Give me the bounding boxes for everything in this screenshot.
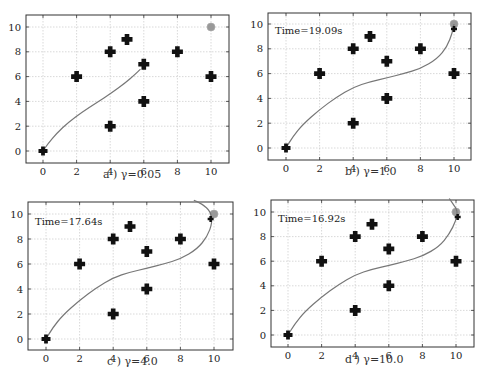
obstacle-marker bbox=[451, 256, 462, 267]
y-tick-label: 2 bbox=[260, 305, 266, 316]
y-tick-label: 4 bbox=[260, 280, 266, 291]
y-tick-label: 0 bbox=[260, 330, 266, 341]
y-tick-label: 10 bbox=[253, 207, 266, 218]
x-tick-label: 8 bbox=[419, 350, 425, 361]
start-marker bbox=[284, 331, 293, 340]
x-tick-label: 10 bbox=[450, 350, 463, 361]
subplot-caption: d ) γ=10.0 bbox=[345, 353, 404, 366]
time-annotation: Time=16.92s bbox=[278, 213, 345, 224]
plot-area: 02468100246810Time=16.92s bbox=[0, 0, 486, 391]
obstacle-marker bbox=[383, 243, 394, 254]
obstacle-marker bbox=[350, 305, 361, 316]
obstacle-marker bbox=[383, 280, 394, 291]
y-tick-label: 8 bbox=[260, 231, 266, 242]
x-tick-label: 0 bbox=[285, 350, 291, 361]
obstacle-marker bbox=[350, 231, 361, 242]
x-tick-label: 2 bbox=[318, 350, 324, 361]
y-tick-label: 6 bbox=[260, 256, 266, 267]
obstacle-marker bbox=[316, 256, 327, 267]
obstacle-marker bbox=[367, 219, 378, 230]
obstacle-marker bbox=[417, 231, 428, 242]
